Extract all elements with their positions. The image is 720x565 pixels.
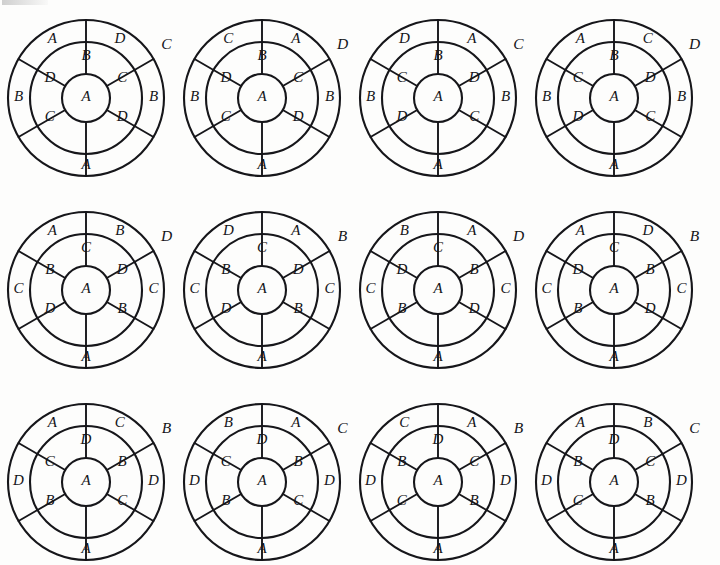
outer-ring-divider xyxy=(195,318,214,329)
outside-label: B xyxy=(338,227,348,244)
outer-ring-divider xyxy=(663,126,682,137)
outer-label-right: D xyxy=(499,472,511,488)
outer-label-right: D xyxy=(675,472,687,488)
outer-ring-divider xyxy=(487,318,506,329)
outer-ring-divider xyxy=(371,126,390,137)
outer-ring-divider xyxy=(311,251,330,262)
inner-label-left: B xyxy=(397,453,406,469)
outer-ring-divider xyxy=(371,59,390,70)
inner-label-top: C xyxy=(81,239,92,255)
outer-label-upper-left: D xyxy=(398,30,410,46)
outer-ring-divider xyxy=(311,126,330,137)
inner-label-top: C xyxy=(609,239,620,255)
outer-label-right: C xyxy=(676,280,687,296)
outer-ring-divider xyxy=(19,318,38,329)
outer-ring-divider xyxy=(663,510,682,521)
outside-label: C xyxy=(689,419,700,436)
outer-label-upper-right: C xyxy=(115,414,126,430)
wheel-diagram: ACDDADCBBCAB xyxy=(0,390,176,565)
inner-label-right: C xyxy=(469,453,480,469)
inner-label-lower-left: C xyxy=(45,108,56,124)
outer-label-bottom: A xyxy=(608,348,619,364)
wheel-diagram: ACBBABCDDCAD xyxy=(524,6,704,194)
outer-label-upper-right: A xyxy=(466,414,477,430)
outside-label: B xyxy=(162,419,172,436)
wheel-diagram: ADCCACDBBDAB xyxy=(524,198,704,386)
outer-ring-divider xyxy=(195,126,214,137)
outer-ring-divider xyxy=(311,443,330,454)
outer-label-right: B xyxy=(325,88,334,104)
outer-ring-divider xyxy=(135,251,154,262)
hub-label: A xyxy=(608,88,619,104)
outer-ring-divider xyxy=(311,510,330,521)
inner-label-lower-left: B xyxy=(397,300,406,316)
outer-ring-divider xyxy=(547,443,566,454)
inner-label-lower-left: B xyxy=(573,300,582,316)
inner-label-top: B xyxy=(257,47,266,63)
outer-ring-divider xyxy=(195,510,214,521)
outer-ring-divider xyxy=(135,443,154,454)
hub-label: A xyxy=(256,280,267,296)
inner-label-lower-right: B xyxy=(118,300,127,316)
inner-label-right: C xyxy=(117,69,128,85)
inner-label-top: C xyxy=(257,239,268,255)
wheel-diagram: ADBBABDCCDAC xyxy=(0,6,176,194)
outer-ring-divider xyxy=(19,443,38,454)
inner-label-lower-right: C xyxy=(293,492,304,508)
inner-label-lower-left: C xyxy=(573,492,584,508)
outer-label-bottom: A xyxy=(608,540,619,556)
outer-ring-divider xyxy=(195,59,214,70)
hub-label: A xyxy=(256,88,267,104)
inner-label-right: C xyxy=(645,453,656,469)
outer-label-upper-left: B xyxy=(224,414,233,430)
outer-ring-divider xyxy=(195,443,214,454)
inner-label-right: C xyxy=(293,69,304,85)
outer-label-bottom: A xyxy=(432,348,443,364)
inner-label-lower-left: D xyxy=(395,108,407,124)
wheel-diagram: CADDADBCCBAB xyxy=(348,390,528,565)
outer-label-upper-right: C xyxy=(643,30,654,46)
outer-ring-divider xyxy=(487,510,506,521)
outer-label-right: C xyxy=(500,280,511,296)
outer-label-upper-right: A xyxy=(290,414,301,430)
inner-label-left: B xyxy=(45,261,54,277)
outer-label-right: C xyxy=(148,280,159,296)
outer-label-right: B xyxy=(677,88,686,104)
hub-label: A xyxy=(608,280,619,296)
outside-label: D xyxy=(512,227,524,244)
outer-label-bottom: A xyxy=(256,348,267,364)
inner-label-right: B xyxy=(294,453,303,469)
inner-label-lower-left: B xyxy=(221,492,230,508)
outer-label-right: C xyxy=(324,280,335,296)
outside-label: D xyxy=(688,35,700,52)
outer-label-bottom: A xyxy=(80,156,91,172)
outer-label-bottom: A xyxy=(608,156,619,172)
inner-label-left: D xyxy=(571,261,583,277)
outer-ring-divider xyxy=(19,510,38,521)
outer-label-upper-left: A xyxy=(575,30,586,46)
outer-label-upper-right: B xyxy=(643,414,652,430)
hub-label: A xyxy=(608,472,619,488)
hub-label: A xyxy=(80,88,91,104)
inner-label-left: C xyxy=(397,69,408,85)
outer-ring-divider xyxy=(311,318,330,329)
inner-label-right: D xyxy=(116,261,128,277)
outside-label: C xyxy=(337,419,348,436)
wheel-grid: ADBBABDCCDACCABBABDCCDADDABBABCDDCACACBB… xyxy=(0,0,720,565)
wheel-diagram: ABDDADBCCBAC xyxy=(524,390,704,565)
inner-label-top: B xyxy=(81,47,90,63)
inner-label-right: B xyxy=(646,261,655,277)
outer-ring-divider xyxy=(371,443,390,454)
outer-label-bottom: A xyxy=(432,156,443,172)
outer-label-upper-left: D xyxy=(222,222,234,238)
inner-label-right: D xyxy=(644,69,656,85)
outer-label-left: D xyxy=(12,472,24,488)
outside-label: B xyxy=(514,419,524,436)
outside-label: D xyxy=(336,35,348,52)
wheel-diagram: CABBABDCCDAD xyxy=(172,6,352,194)
inner-label-lower-left: D xyxy=(43,300,55,316)
inner-label-lower-right: D xyxy=(644,300,656,316)
outer-ring-divider xyxy=(547,510,566,521)
wheel-diagram: BADDADCBBCAC xyxy=(172,390,352,565)
outer-ring-divider xyxy=(547,318,566,329)
